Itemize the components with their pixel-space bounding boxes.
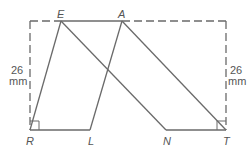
geometry-diagram: E A R L N T 26 mm 26 mm xyxy=(0,0,252,160)
right-dimension-unit: mm xyxy=(228,75,246,87)
label-L: L xyxy=(88,135,94,147)
label-N: N xyxy=(163,135,171,147)
parallelogram-ENTA xyxy=(61,21,226,130)
label-R: R xyxy=(26,135,34,147)
dashed-bounding-rectangle xyxy=(30,21,226,130)
label-T: T xyxy=(223,135,231,147)
left-dimension-unit: mm xyxy=(9,75,27,87)
label-A: A xyxy=(117,8,125,20)
label-E: E xyxy=(57,8,65,20)
